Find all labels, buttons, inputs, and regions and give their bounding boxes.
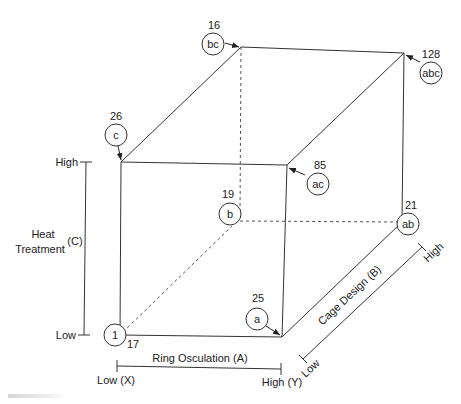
svg-text:128: 128 [422,48,440,60]
edge-hidden-back-bottom [240,221,398,222]
svg-text:c: c [113,129,119,141]
axis-c-high: High [55,156,78,168]
figure-caption-fragment [8,394,68,398]
edge-top-back [241,47,404,53]
svg-text:17: 17 [127,338,139,350]
corner-b: b 19 [219,188,241,225]
svg-text:a: a [254,313,261,325]
corner-a: a 25 [246,292,280,335]
edge-front-bottom [120,335,282,337]
svg-text:85: 85 [314,159,326,171]
edge-hidden-diagonal [123,226,232,332]
edge-bottom-right [282,224,400,337]
edge-top-left [121,47,241,162]
corner-bc: bc 16 [202,19,239,55]
axis-a-label: Ring Osculation (A) [152,352,247,364]
svg-text:bc: bc [207,38,219,50]
svg-text:25: 25 [252,292,264,304]
corner-1: 1 17 [104,324,139,350]
axis-c [78,162,92,335]
svg-text:ab: ab [402,218,414,230]
axis-a-low: Low (X) [97,374,135,386]
svg-text:21: 21 [405,199,417,211]
svg-text:abc: abc [422,67,440,79]
edge-front-left [120,162,121,335]
edge-hidden-vertical [240,47,241,215]
axis-c-label-2: Treatment [15,243,65,255]
corner-ac: ac 85 [289,159,329,195]
svg-text:19: 19 [222,188,234,200]
axis-c-code: (C) [67,235,82,247]
edge-top-right [287,53,404,165]
axis-b-low: Low [299,357,322,380]
edge-front-top [121,162,287,165]
edge-back-right [402,53,404,220]
corner-c: c 26 [105,110,127,160]
svg-text:26: 26 [110,110,122,122]
axis-c-label-1: Heat [31,228,54,240]
svg-text:ac: ac [312,178,324,190]
edge-front-right [282,165,287,337]
svg-text:b: b [227,208,233,220]
axis-b-high: High [421,240,446,264]
corner-abc: abc 128 [406,48,442,84]
svg-text:16: 16 [208,19,220,31]
svg-text:1: 1 [112,329,118,341]
axis-a-high: High (Y) [262,376,302,388]
cube-diagram: 1 17 a 25 b 19 ab 21 c 26 ac 85 bc 16 ab [0,0,461,404]
corner-ab: ab 21 [397,199,419,235]
axis-c-low: Low [56,329,76,341]
